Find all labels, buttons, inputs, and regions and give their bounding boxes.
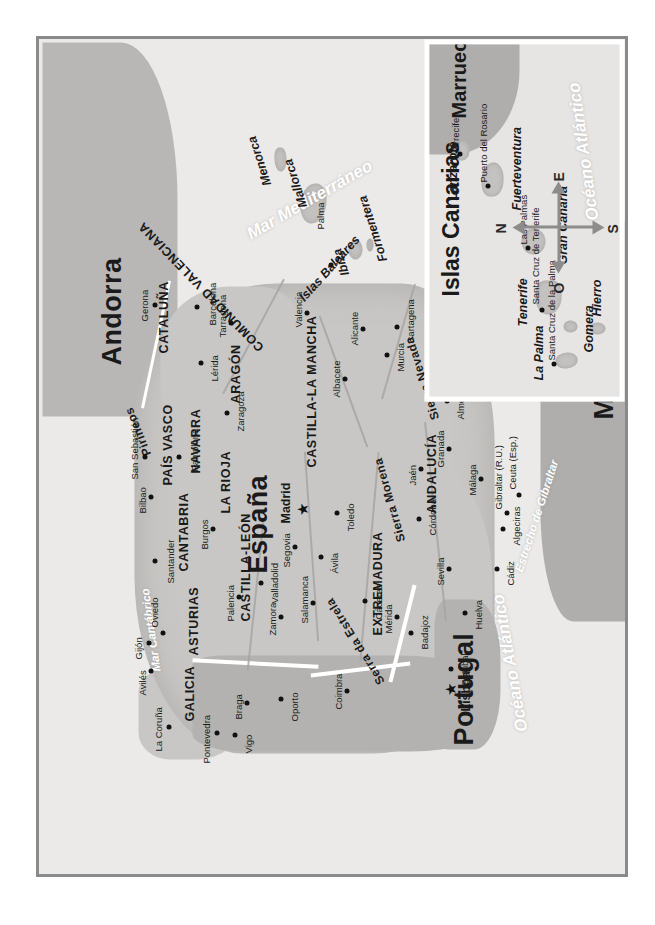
city-label-zaragoza: Zaragoza: [234, 391, 245, 431]
compass-label-west: O: [550, 282, 566, 293]
city-dot: [166, 724, 171, 729]
city-label-pamplona: Pamplona: [188, 428, 199, 471]
city-label-badajoz: Badajoz: [418, 615, 429, 649]
city-dot: [236, 594, 241, 599]
city-label-gerona: Gerona: [138, 289, 149, 321]
city-dot: [310, 600, 315, 605]
territory-dot: [504, 510, 509, 515]
capital-label-madrid: Madrid: [278, 482, 292, 523]
city-label-arrecife: Arrecife: [449, 117, 460, 150]
city-label-cartagena: Cartagena: [404, 299, 415, 343]
city-dot: [278, 614, 283, 619]
island-gomera: [563, 320, 577, 332]
city-dot: [214, 730, 219, 735]
city-label-tarragona: Tarragona: [216, 294, 227, 337]
compass-label-south: S: [604, 224, 620, 233]
city-label-huelva: Huelva: [472, 599, 483, 629]
city-dot: [176, 454, 181, 459]
city-dot: [210, 526, 215, 531]
capital-star-madrid: ★: [294, 502, 309, 515]
city-label-la-coruna: La Coruña: [152, 707, 163, 751]
city-dot: [416, 516, 421, 521]
city-label-granada: Granada: [434, 430, 445, 467]
island-label-menorca: Menorca: [244, 134, 273, 187]
city-dot: [408, 630, 413, 635]
capital-star-lisboa: ★: [442, 682, 457, 695]
territory-dot: [516, 492, 521, 497]
city-dot: [146, 640, 151, 645]
city-label-oporto: Oporto: [288, 692, 299, 721]
city-dot: [194, 304, 199, 309]
city-dot: [292, 544, 297, 549]
country-label-andorra: Andorra: [96, 257, 127, 365]
city-label-coimbra: Coimbra: [332, 673, 343, 709]
city-dot: [304, 310, 309, 315]
inset-country-label-marruecos: Marruecos: [447, 39, 470, 118]
city-label-braga: Braga: [232, 694, 243, 719]
city-dot: [485, 183, 490, 188]
city-label-aviles: Avilés: [136, 670, 147, 695]
city-dot: [198, 360, 203, 365]
region-label-la-rioja: LA RIOJA: [218, 450, 232, 513]
map-canvas: Océano Atlántico Mar Mediterráneo Mar Ca…: [42, 42, 622, 871]
city-label-santander: Santander: [164, 539, 175, 583]
city-label-valladolid: Valladolid: [268, 563, 279, 604]
city-label-zamora: Zamora: [266, 602, 277, 635]
city-dot: [278, 696, 283, 701]
compass-arrow-east: [551, 181, 565, 193]
city-dot: [362, 598, 367, 603]
city-dot: [224, 410, 229, 415]
compass-label-east: E: [550, 172, 566, 181]
city-dot: [244, 700, 249, 705]
city-label-merida: Mérida: [382, 604, 393, 633]
city-dot: [142, 454, 147, 459]
compass-arrow-west: [551, 261, 565, 273]
city-dot: [494, 566, 499, 571]
city-label-malaga: Málaga: [466, 464, 477, 495]
city-dot: [551, 361, 556, 366]
city-label-pontevedra: Pontevedra: [200, 714, 211, 763]
city-dot: [539, 307, 544, 312]
city-label-barcelona: Barcelona: [206, 282, 217, 325]
city-dot: [318, 554, 323, 559]
compass-arrow-south: [592, 220, 604, 234]
city-dot: [448, 666, 453, 671]
island-label-mallorca: Mallorca: [281, 157, 310, 210]
city-dot: [500, 526, 505, 531]
city-label-vigo: Vigo: [242, 734, 253, 753]
city-label-setubal: Setúbal: [458, 653, 469, 685]
compass-label-north: N: [492, 223, 508, 233]
city-label-murcia: Murcia: [394, 342, 405, 371]
city-label-salamanca: Salamanca: [298, 575, 309, 623]
city-label-segovia: Segovia: [280, 533, 291, 567]
city-dot: [228, 320, 233, 325]
city-label-san-sebastian: San Sebastián: [128, 417, 139, 479]
city-dot: [148, 668, 153, 673]
map-frame: Océano Atlántico Mar Mediterráneo Mar Ca…: [36, 36, 628, 877]
city-dot: [384, 352, 389, 357]
city-dot: [462, 610, 467, 615]
city-dot: [258, 580, 263, 585]
territory-label-ceuta: Ceuta (Esp.): [506, 436, 517, 489]
city-label-puerto-del-rosario: Puerto del Rosario: [477, 103, 488, 182]
city-label-palma: Palma: [314, 202, 325, 229]
city-dot: [160, 630, 165, 635]
city-dot: [418, 466, 423, 471]
city-label-palencia: Palencia: [224, 585, 235, 621]
city-dot: [478, 476, 483, 481]
city-dot: [394, 614, 399, 619]
island-label-tenerife: Tenerife: [515, 278, 529, 326]
city-dot: [152, 302, 157, 307]
region-label-castilla-leon: CASTILLA-LEÓN: [238, 513, 252, 621]
city-label-alicante: Alicante: [348, 311, 359, 345]
city-dot: [148, 494, 153, 499]
region-label-asturias: ASTURIAS: [186, 586, 200, 655]
city-label-toledo: Toledo: [344, 503, 355, 531]
region-label-pais-vasco: PAÍS VASCO: [160, 404, 174, 485]
region-label-castilla-la-mancha: CASTILLA-LA MANCHA: [304, 315, 318, 467]
city-label-gijon: Gijón: [132, 637, 143, 659]
city-label-bilbao: Bilbao: [136, 487, 147, 513]
city-label-sevilla: Sevilla: [434, 557, 445, 585]
city-label-avila: Ávila: [328, 552, 339, 573]
city-dot: [342, 376, 347, 381]
